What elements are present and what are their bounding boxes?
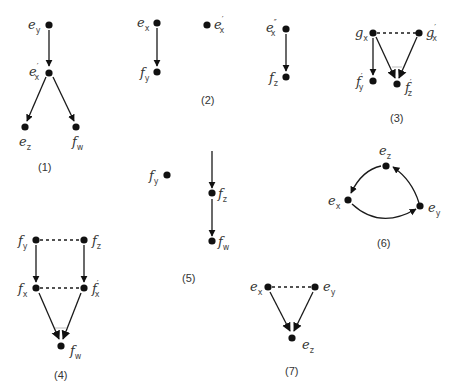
label-e-prime-x: e′x bbox=[29, 63, 40, 82]
label-e-prime-x: e′x bbox=[214, 16, 225, 35]
node-e-x bbox=[153, 19, 160, 26]
node-e-z bbox=[288, 334, 295, 341]
label-e-z: ez bbox=[19, 134, 31, 152]
edge-ey-to-ez bbox=[294, 292, 313, 331]
label-f-prime-x: f′x bbox=[91, 280, 100, 299]
edge-gx-to-fpz bbox=[376, 37, 395, 78]
label-f-y: fy bbox=[139, 65, 150, 83]
node-f-y bbox=[153, 68, 160, 75]
edge-epx-to-fw bbox=[53, 77, 74, 121]
label-e-y: ey bbox=[428, 200, 441, 218]
node-g-x bbox=[369, 29, 376, 36]
label-e-z: ez bbox=[302, 337, 314, 355]
node-f-y bbox=[32, 236, 39, 243]
node-f-z bbox=[80, 236, 87, 243]
diagram-7: ex ey ez (7) bbox=[250, 279, 336, 377]
edge-ex-to-ez bbox=[270, 292, 290, 331]
node-f-w bbox=[208, 237, 215, 244]
node-f-prime-y bbox=[369, 77, 376, 84]
node-f-w bbox=[72, 123, 79, 130]
label-f-z: fz bbox=[217, 186, 227, 204]
edge-epx-to-ez bbox=[27, 77, 46, 121]
node-e-x bbox=[344, 196, 351, 203]
diagram-2: ex fy e′x e″x fz (2) bbox=[137, 15, 290, 106]
diagram-4: fy fz fx f′x fw (4) bbox=[17, 233, 101, 381]
node-f-y bbox=[163, 171, 170, 178]
label-f-w: fw bbox=[69, 343, 82, 361]
label-f-z: fz bbox=[268, 70, 278, 88]
diagram-3: gx g′x f′y f′z (3) bbox=[355, 24, 437, 124]
label-e-y: ey bbox=[323, 279, 336, 297]
label-f-z: fz bbox=[91, 233, 101, 251]
label-e-x: ex bbox=[328, 193, 341, 211]
label-g-x: gx bbox=[355, 25, 368, 43]
edge-fpx-to-fw bbox=[63, 293, 81, 339]
node-e-y bbox=[311, 283, 318, 290]
edge-fx-to-fw bbox=[39, 293, 59, 339]
diagram-1: ey e′x ez fw (1) bbox=[19, 17, 84, 173]
label-f-w: fw bbox=[71, 134, 84, 152]
node-f-x bbox=[32, 284, 39, 291]
label-e-x: ex bbox=[137, 15, 150, 33]
edge-ex-to-ey bbox=[352, 204, 416, 218]
node-f-prime-x bbox=[80, 284, 87, 291]
node-f-prime-z bbox=[393, 80, 400, 87]
label-f-prime-y: f′y bbox=[355, 73, 364, 92]
node-e-double-prime-x bbox=[282, 25, 289, 32]
node-e-y bbox=[416, 202, 423, 209]
diagram-5: fy fz fw (5) bbox=[148, 151, 230, 284]
edge-ey-to-ez bbox=[393, 167, 419, 203]
node-g-prime-x bbox=[415, 29, 422, 36]
diagram-6: ez ex ey (6) bbox=[328, 143, 441, 249]
label-f-w: fw bbox=[217, 234, 230, 252]
label-f-y: fy bbox=[148, 168, 159, 186]
edge-ez-to-ex bbox=[351, 166, 381, 193]
diagram-canvas: ey e′x ez fw (1) ex fy e′x e″x fz (2) gx… bbox=[0, 0, 455, 392]
node-f-w bbox=[57, 342, 64, 349]
label-e-z: ez bbox=[379, 143, 391, 161]
caption-6: (6) bbox=[377, 237, 390, 249]
node-f-z bbox=[282, 73, 289, 80]
label-e-double-prime-x: e″x bbox=[266, 19, 277, 38]
node-e-prime-x bbox=[203, 21, 210, 28]
label-e-y: ey bbox=[28, 17, 41, 35]
node-f-z bbox=[208, 189, 215, 196]
node-e-x bbox=[264, 283, 271, 290]
caption-7: (7) bbox=[285, 365, 298, 377]
label-f-y: fy bbox=[17, 233, 28, 251]
caption-3: (3) bbox=[390, 112, 403, 124]
label-f-prime-z: f′z bbox=[404, 79, 412, 98]
caption-4: (4) bbox=[54, 369, 67, 381]
node-e-prime-x bbox=[45, 69, 52, 76]
node-e-z bbox=[21, 123, 28, 130]
label-f-x: fx bbox=[17, 281, 28, 299]
node-e-y bbox=[45, 21, 52, 28]
node-e-z bbox=[382, 162, 389, 169]
label-e-x: ex bbox=[250, 279, 263, 297]
label-g-prime-x: g′x bbox=[426, 24, 437, 43]
caption-2: (2) bbox=[201, 94, 214, 106]
caption-5: (5) bbox=[182, 272, 195, 284]
caption-1: (1) bbox=[38, 161, 51, 173]
edge-gpx-to-fpz bbox=[399, 37, 417, 78]
